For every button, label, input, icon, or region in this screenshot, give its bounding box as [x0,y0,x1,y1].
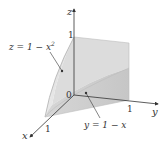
z-tick-1: 1 [68,30,74,40]
diagram-canvas: z 1 0 1 y 1 x z = 1 − x2 y = 1 − x [0,0,166,147]
y-tick-1: 1 [127,104,133,114]
label-plane: y = 1 − x [83,120,126,130]
origin-label: 0 [66,90,72,100]
leader-plane-dot [85,92,87,94]
x-tick-1: 1 [45,124,51,134]
y-axis-label: y [151,106,158,117]
label-parabolic: z = 1 − x2 [8,40,55,52]
z-axis-label: z [66,6,73,17]
x-axis-label: x [22,130,28,141]
leader-parabolic [50,52,62,71]
leader-parabolic-dot [61,70,63,72]
